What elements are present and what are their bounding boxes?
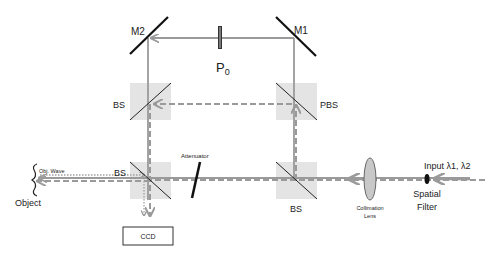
label-filter: Filter <box>417 202 437 212</box>
collimation-lens <box>364 158 376 200</box>
label-m1: M1 <box>294 25 308 36</box>
optical-setup-diagram: M2 M1 P0 BS PBS BS BS Attenuator Collima… <box>0 0 493 256</box>
label-attenuator: Attenuator <box>181 153 209 159</box>
label-bs-lower-right: BS <box>290 204 302 214</box>
label-input: Input λ1, λ2 <box>424 161 471 171</box>
label-collimation-1: Collimation <box>356 205 383 211</box>
label-pbs: PBS <box>320 100 338 110</box>
object-brace-icon <box>32 164 37 196</box>
label-m2: M2 <box>131 26 145 37</box>
mirror-m1 <box>276 17 316 56</box>
label-bs-upper: BS <box>113 100 125 110</box>
label-p0: P0 <box>216 60 230 77</box>
label-collimation-2: Lens <box>364 213 376 219</box>
solid-beam-paths <box>40 38 470 200</box>
spatial-filter <box>425 174 430 184</box>
label-ccd: CCD <box>140 233 155 240</box>
label-bs-lower-left: BS <box>114 168 126 178</box>
label-spatial: Spatial <box>413 189 441 199</box>
label-obj-wave: Obj. Wave <box>39 168 64 174</box>
label-object: Object <box>15 198 42 208</box>
